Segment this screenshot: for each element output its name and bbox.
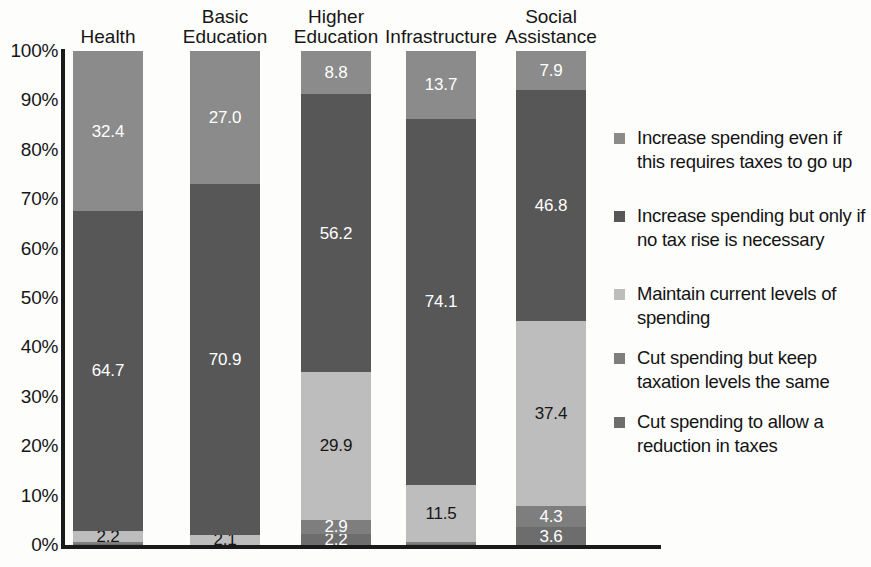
legend-item-label: Cut spending to allow a reduction in tax… bbox=[637, 410, 871, 459]
bar-segment-value-label: 27.0 bbox=[209, 109, 241, 126]
bar-column: Higher Education8.856.229.92.92.2 bbox=[301, 51, 371, 545]
legend-item[interactable]: Maintain current levels of spending bbox=[614, 282, 871, 331]
x-axis-category-label: Health bbox=[81, 27, 136, 51]
bar-segment: 27.0 bbox=[190, 51, 260, 184]
y-axis-tick-label: 10% bbox=[0, 485, 58, 507]
bar-segment-value-label: 7.9 bbox=[539, 62, 562, 79]
bar-segment-value-label: 56.2 bbox=[320, 225, 352, 242]
bar-segment-value-label: 8.8 bbox=[324, 64, 347, 81]
bar-segment-value-label: 2.1 bbox=[213, 535, 236, 545]
bar-segment bbox=[406, 544, 476, 545]
x-axis-line bbox=[61, 545, 661, 549]
x-axis-category-label: Social Assistance bbox=[505, 7, 597, 51]
bar-segment-value-label: 2.2 bbox=[324, 534, 347, 545]
y-axis-tick-label: 100% bbox=[0, 40, 58, 62]
bar-segment-value-label: 70.9 bbox=[209, 351, 241, 368]
bar-segment: 13.7 bbox=[406, 51, 476, 119]
bar-segment-value-label: 13.7 bbox=[425, 76, 457, 93]
bar-segment: 4.3 bbox=[516, 506, 586, 527]
y-axis-tick-label: 90% bbox=[0, 89, 58, 111]
bar-segment-value-label: 2.2 bbox=[96, 531, 119, 542]
x-axis-category-label: Higher Education bbox=[294, 7, 379, 51]
y-axis-tick-labels: 100%90%80%70%60%50%40%30%20%10%0% bbox=[0, 0, 58, 567]
bar-column: Infrastructure13.774.111.5 bbox=[406, 51, 476, 545]
plot-area: Health32.464.72.2Basic Education27.070.9… bbox=[65, 51, 661, 545]
legend-item[interactable]: Cut spending but keep taxation levels th… bbox=[614, 346, 871, 395]
y-axis-tick-label: 40% bbox=[0, 336, 58, 358]
bar-segment-value-label: 37.4 bbox=[535, 405, 567, 422]
legend-item-label: Increase spending but only if no tax ris… bbox=[637, 204, 871, 253]
bar-segment-value-label: 32.4 bbox=[92, 123, 124, 140]
bar-segment: 46.8 bbox=[516, 90, 586, 321]
bar-segment: 29.9 bbox=[301, 372, 371, 520]
y-axis-tick-label: 20% bbox=[0, 435, 58, 457]
bar-segment: 70.9 bbox=[190, 184, 260, 534]
bar-segment: 3.6 bbox=[516, 527, 586, 545]
y-axis-tick-label: 70% bbox=[0, 188, 58, 210]
bar-segment: 7.9 bbox=[516, 51, 586, 90]
bar-segment: 11.5 bbox=[406, 485, 476, 542]
legend-item-label: Increase spending even if this requires … bbox=[637, 126, 871, 175]
bar-segment: 2.2 bbox=[301, 534, 371, 545]
chart-root: 100%90%80%70%60%50%40%30%20%10%0% Health… bbox=[0, 0, 871, 567]
bar-segment-value-label: 4.3 bbox=[539, 508, 562, 525]
x-axis-category-label: Basic Education bbox=[183, 7, 268, 51]
y-axis-tick-label: 60% bbox=[0, 238, 58, 260]
legend-swatch-icon bbox=[614, 353, 625, 364]
bar-column: Health32.464.72.2 bbox=[73, 51, 143, 545]
bar-segment: 32.4 bbox=[73, 51, 143, 211]
legend-swatch-icon bbox=[614, 289, 625, 300]
bar-segment-value-label: 74.1 bbox=[425, 293, 457, 310]
legend-item-label: Cut spending but keep taxation levels th… bbox=[637, 346, 871, 395]
bar-column: Social Assistance7.946.837.44.33.6 bbox=[516, 51, 586, 545]
legend-item[interactable]: Increase spending even if this requires … bbox=[614, 126, 871, 175]
bar-segment: 56.2 bbox=[301, 94, 371, 372]
legend-swatch-icon bbox=[614, 417, 625, 428]
bar-segment: 74.1 bbox=[406, 119, 476, 485]
bar-segment-value-label: 11.5 bbox=[425, 505, 456, 522]
bar-segment: 8.8 bbox=[301, 51, 371, 94]
bar-segment-value-label: 46.8 bbox=[535, 197, 567, 214]
bar-segment: 64.7 bbox=[73, 211, 143, 531]
bar-column: Basic Education27.070.92.1 bbox=[190, 51, 260, 545]
bar-segment: 2.2 bbox=[73, 531, 143, 542]
bar-segment: 2.1 bbox=[190, 535, 260, 545]
x-axis-category-label: Infrastructure bbox=[385, 27, 497, 51]
y-axis-tick-label: 0% bbox=[0, 534, 58, 556]
bar-segment-value-label: 29.9 bbox=[320, 437, 352, 454]
legend-swatch-icon bbox=[614, 211, 625, 222]
bar-segment-value-label: 3.6 bbox=[539, 528, 562, 545]
bar-segment-value-label: 2.9 bbox=[324, 520, 347, 534]
legend-item-label: Maintain current levels of spending bbox=[637, 282, 871, 331]
legend-item[interactable]: Cut spending to allow a reduction in tax… bbox=[614, 410, 871, 459]
bar-segment-value-label: 64.7 bbox=[92, 362, 124, 379]
y-axis-tick-label: 80% bbox=[0, 139, 58, 161]
bar-segment bbox=[73, 544, 143, 545]
bar-segment: 37.4 bbox=[516, 321, 586, 506]
legend-item[interactable]: Increase spending but only if no tax ris… bbox=[614, 204, 871, 253]
legend-swatch-icon bbox=[614, 133, 625, 144]
y-axis-tick-label: 50% bbox=[0, 287, 58, 309]
y-axis-tick-label: 30% bbox=[0, 386, 58, 408]
bar-segment: 2.9 bbox=[301, 520, 371, 534]
